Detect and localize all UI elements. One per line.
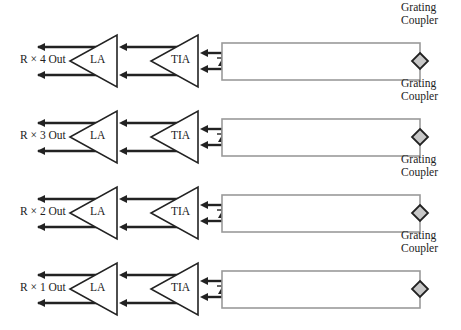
receiver-channel-3: R × 3 Out LA TIA Grating Coupler — [0, 99, 461, 175]
tia-label: TIA — [171, 205, 190, 217]
waveguide — [222, 119, 420, 156]
coupler-label-line1: Grating — [401, 1, 438, 14]
la-label: LA — [90, 53, 105, 65]
output-label: R × 3 Out — [20, 129, 66, 141]
pd-to-tia-arrows — [200, 277, 222, 301]
output-label: R × 2 Out — [20, 205, 66, 217]
grating-coupler-label: Grating Coupler — [401, 1, 438, 27]
tia-label: TIA — [171, 281, 190, 293]
la-label: LA — [90, 281, 105, 293]
channel-schematic — [0, 99, 461, 175]
grating-coupler-label: Grating Coupler — [401, 153, 438, 179]
pd-to-tia-arrows — [200, 125, 222, 149]
channel-schematic — [0, 23, 461, 99]
waveguide — [222, 195, 420, 232]
coupler-label-line2: Coupler — [401, 90, 438, 103]
output-label: R × 1 Out — [20, 281, 66, 293]
waveguide — [222, 271, 420, 308]
coupler-label-line1: Grating — [401, 77, 438, 90]
coupler-label-line2: Coupler — [401, 242, 438, 255]
tia-label: TIA — [171, 53, 190, 65]
grating-coupler-label: Grating Coupler — [401, 77, 438, 103]
pd-to-tia-arrows — [200, 201, 222, 225]
la-label: LA — [90, 129, 105, 141]
coupler-label-line1: Grating — [401, 153, 438, 166]
channel-schematic — [0, 175, 461, 251]
tia-label: TIA — [171, 129, 190, 141]
waveguide — [222, 43, 420, 80]
coupler-label-line1: Grating — [401, 229, 438, 242]
output-label: R × 4 Out — [20, 53, 66, 65]
receiver-channel-1: R × 1 Out LA TIA Grating Coupler — [0, 251, 461, 327]
coupler-label-line2: Coupler — [401, 166, 438, 179]
receiver-channel-2: R × 2 Out LA TIA Grating Coupler — [0, 175, 461, 251]
grating-coupler-label: Grating Coupler — [401, 229, 438, 255]
coupler-label-line2: Coupler — [401, 14, 438, 27]
channel-schematic — [0, 251, 461, 327]
la-label: LA — [90, 205, 105, 217]
receiver-channel-4: R × 4 Out LA TIA Grating Coupler — [0, 23, 461, 99]
pd-to-tia-arrows — [200, 49, 222, 73]
